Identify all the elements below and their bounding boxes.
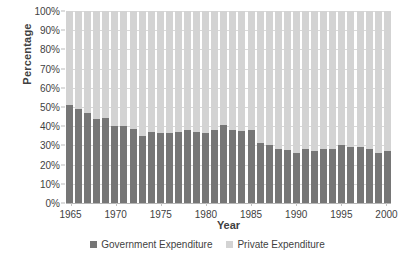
bar-segment-private[interactable] <box>302 11 309 149</box>
bar-segment-private[interactable] <box>93 11 100 119</box>
bar-1967[interactable] <box>84 11 91 203</box>
bar-segment-government[interactable] <box>347 147 354 203</box>
bar-segment-private[interactable] <box>202 11 209 133</box>
bar-1984[interactable] <box>238 11 245 203</box>
bar-segment-private[interactable] <box>375 11 382 153</box>
bar-1998[interactable] <box>366 11 373 203</box>
bar-segment-government[interactable] <box>175 132 182 203</box>
bar-segment-government[interactable] <box>275 149 282 203</box>
bar-segment-government[interactable] <box>284 150 291 203</box>
bar-1986[interactable] <box>257 11 264 203</box>
bar-segment-private[interactable] <box>293 11 300 153</box>
bar-1965[interactable] <box>66 11 73 203</box>
bar-segment-government[interactable] <box>93 119 100 203</box>
bar-segment-private[interactable] <box>248 11 255 130</box>
bar-segment-government[interactable] <box>84 113 91 203</box>
bar-segment-private[interactable] <box>111 11 118 126</box>
bar-segment-private[interactable] <box>220 11 227 125</box>
bar-1982[interactable] <box>220 11 227 203</box>
bar-segment-government[interactable] <box>311 151 318 203</box>
bar-1969[interactable] <box>102 11 109 203</box>
bar-segment-government[interactable] <box>257 143 264 203</box>
bar-segment-government[interactable] <box>366 149 373 203</box>
bar-segment-private[interactable] <box>357 11 364 147</box>
bar-segment-government[interactable] <box>357 147 364 203</box>
bar-segment-government[interactable] <box>139 136 146 203</box>
bar-1975[interactable] <box>157 11 164 203</box>
bar-segment-government[interactable] <box>157 133 164 203</box>
bar-1995[interactable] <box>338 11 345 203</box>
bar-segment-private[interactable] <box>148 11 155 132</box>
bar-1970[interactable] <box>111 11 118 203</box>
bar-1993[interactable] <box>320 11 327 203</box>
bar-segment-private[interactable] <box>193 11 200 132</box>
bar-1994[interactable] <box>329 11 336 203</box>
bar-1966[interactable] <box>75 11 82 203</box>
bar-segment-private[interactable] <box>257 11 264 143</box>
bar-segment-private[interactable] <box>66 11 73 105</box>
bar-1985[interactable] <box>248 11 255 203</box>
bar-segment-government[interactable] <box>320 149 327 203</box>
bar-1968[interactable] <box>93 11 100 203</box>
bar-segment-private[interactable] <box>84 11 91 113</box>
bar-1983[interactable] <box>229 11 236 203</box>
bar-segment-government[interactable] <box>229 130 236 203</box>
legend-item-government[interactable]: Government Expenditure <box>90 239 212 250</box>
bar-1997[interactable] <box>357 11 364 203</box>
bar-segment-private[interactable] <box>347 11 354 147</box>
bar-segment-private[interactable] <box>157 11 164 133</box>
bar-segment-government[interactable] <box>238 131 245 203</box>
bar-segment-government[interactable] <box>111 126 118 203</box>
bar-1973[interactable] <box>139 11 146 203</box>
bar-segment-government[interactable] <box>120 126 127 203</box>
bar-segment-government[interactable] <box>302 149 309 203</box>
bar-1991[interactable] <box>302 11 309 203</box>
bar-segment-private[interactable] <box>102 11 109 118</box>
bar-segment-government[interactable] <box>130 129 137 203</box>
bar-2000[interactable] <box>384 11 391 203</box>
bar-segment-private[interactable] <box>238 11 245 131</box>
bar-segment-private[interactable] <box>275 11 282 149</box>
bar-segment-private[interactable] <box>338 11 345 145</box>
bar-segment-private[interactable] <box>211 11 218 130</box>
bar-1990[interactable] <box>293 11 300 203</box>
bar-segment-private[interactable] <box>229 11 236 130</box>
bar-1992[interactable] <box>311 11 318 203</box>
bar-segment-government[interactable] <box>193 132 200 203</box>
bar-segment-government[interactable] <box>166 133 173 203</box>
bar-segment-government[interactable] <box>75 109 82 203</box>
bar-segment-private[interactable] <box>184 11 191 130</box>
bar-segment-government[interactable] <box>293 153 300 203</box>
bar-segment-private[interactable] <box>384 11 391 151</box>
bar-1981[interactable] <box>211 11 218 203</box>
bar-segment-private[interactable] <box>311 11 318 151</box>
bar-1974[interactable] <box>148 11 155 203</box>
bar-segment-government[interactable] <box>338 145 345 203</box>
bar-segment-government[interactable] <box>202 133 209 203</box>
bar-segment-government[interactable] <box>66 105 73 203</box>
bar-1989[interactable] <box>284 11 291 203</box>
bar-segment-government[interactable] <box>375 153 382 203</box>
bar-1988[interactable] <box>275 11 282 203</box>
bar-1977[interactable] <box>175 11 182 203</box>
legend-item-private[interactable]: Private Expenditure <box>226 239 324 250</box>
bar-1976[interactable] <box>166 11 173 203</box>
bar-segment-government[interactable] <box>220 125 227 203</box>
bar-segment-private[interactable] <box>75 11 82 109</box>
bar-segment-private[interactable] <box>130 11 137 129</box>
bar-segment-private[interactable] <box>320 11 327 149</box>
bar-segment-government[interactable] <box>248 130 255 203</box>
bar-1999[interactable] <box>375 11 382 203</box>
bar-1987[interactable] <box>266 11 273 203</box>
bar-1972[interactable] <box>130 11 137 203</box>
bar-segment-government[interactable] <box>102 118 109 203</box>
bar-segment-private[interactable] <box>366 11 373 149</box>
bar-segment-private[interactable] <box>120 11 127 126</box>
bar-segment-private[interactable] <box>284 11 291 150</box>
bar-1971[interactable] <box>120 11 127 203</box>
bar-1978[interactable] <box>184 11 191 203</box>
bar-segment-private[interactable] <box>266 11 273 145</box>
bar-1979[interactable] <box>193 11 200 203</box>
bar-1996[interactable] <box>347 11 354 203</box>
bar-segment-private[interactable] <box>175 11 182 132</box>
